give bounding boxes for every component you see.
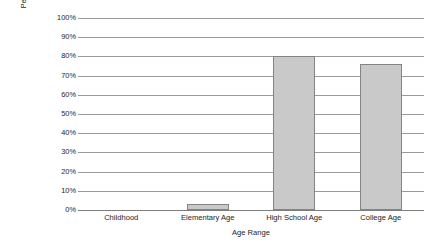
y-axis-tick-label: 70% [46, 72, 76, 80]
y-axis-tick-label: 30% [46, 148, 76, 156]
x-axis-tick-label: College Age [326, 213, 436, 223]
y-axis-tick-label: 100% [46, 14, 76, 22]
x-axis-tick-labels: ChildhoodElementary AgeHigh School AgeCo… [78, 213, 424, 227]
x-axis-line [78, 210, 424, 211]
y-axis-tick-label: 60% [46, 91, 76, 99]
y-axis-tick-labels: 0%10%20%30%40%50%60%70%80%90%100% [46, 18, 76, 210]
y-axis-title: Percentage who reported SNS as favorite … [14, 0, 44, 48]
y-axis-tick-label: 10% [46, 187, 76, 195]
bar [360, 64, 402, 210]
bar [273, 56, 315, 210]
y-axis-title-line-1: Percentage who reported SNS as [19, 0, 29, 8]
y-axis-tick-label: 80% [46, 52, 76, 60]
bars-layer [78, 18, 424, 210]
plot-area [78, 18, 424, 210]
y-axis-tick-label: 40% [46, 129, 76, 137]
x-axis-title: Age Range [78, 228, 424, 238]
bar-chart-figure: Percentage who reported SNS as favorite … [0, 0, 440, 250]
y-axis-tick-label: 90% [46, 33, 76, 41]
y-axis-tick-label: 50% [46, 110, 76, 118]
y-axis-tick-label: 20% [46, 168, 76, 176]
